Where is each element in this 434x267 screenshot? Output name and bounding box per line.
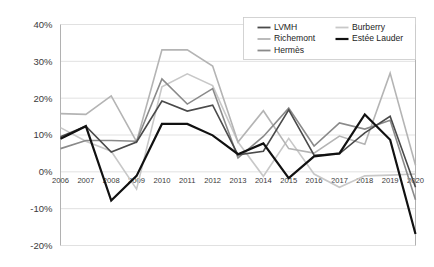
x-tick-label: 2012	[204, 176, 221, 185]
x-tick-label: 2011	[179, 176, 195, 185]
x-axis-tick-labels: 2006200720082009201020112012201320142015…	[52, 176, 424, 185]
chart-legend: LVMHBurberryRichemontEstée LauderHermès	[244, 18, 416, 60]
line-chart: 40%30%20%10%0%-10%-20% 20062007200820092…	[0, 0, 434, 267]
y-tick-label: -10%	[30, 203, 53, 214]
x-tick-label: 2014	[255, 176, 272, 185]
legend-label-est-e-lauder: Estée Lauder	[352, 33, 403, 43]
y-tick-label: -20%	[30, 240, 53, 251]
x-tick-label: 2006	[52, 176, 69, 185]
y-tick-label: 40%	[33, 19, 53, 30]
y-axis-tick-labels: 40%30%20%10%0%-10%-20%	[30, 19, 53, 251]
x-tick-label: 2010	[153, 176, 170, 185]
legend-label-burberry: Burberry	[352, 22, 386, 32]
series-line-est-e-lauder	[61, 114, 416, 234]
x-tick-label: 2013	[230, 176, 247, 185]
y-tick-label: 20%	[33, 93, 53, 104]
legend-label-richemont: Richemont	[274, 33, 316, 43]
y-tick-label: 0%	[39, 166, 53, 177]
legend-label-lvmh: LVMH	[274, 22, 297, 32]
y-tick-label: 10%	[33, 129, 53, 140]
x-tick-label: 2007	[77, 176, 94, 185]
y-tick-label: 30%	[33, 56, 53, 67]
data-series-group	[61, 50, 416, 234]
x-tick-label: 2019	[382, 176, 399, 185]
series-line-richemont	[61, 50, 416, 165]
chart-container: 40%30%20%10%0%-10%-20% 20062007200820092…	[0, 0, 434, 267]
legend-label-herm-s: Hermès	[274, 45, 304, 55]
